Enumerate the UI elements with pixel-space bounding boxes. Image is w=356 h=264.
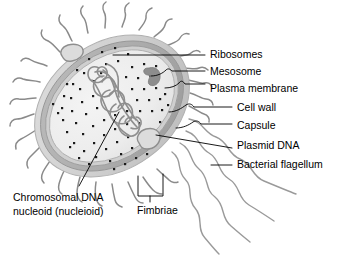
label-bacterial-flagellum: Bacterial flagellum xyxy=(237,158,323,170)
label-fimbriae: Fimbriae xyxy=(137,204,178,216)
label-mesosome: Mesosome xyxy=(210,65,262,77)
label-group-right: Ribosomes Mesosome Plasma membrane Cell … xyxy=(210,48,323,170)
bacteria-cell-diagram: Ribosomes Mesosome Plasma membrane Cell … xyxy=(0,0,356,264)
label-chromosomal-dna-line2: nucleoid (nucleioid) xyxy=(13,205,103,217)
label-cell-wall: Cell wall xyxy=(237,101,276,113)
bacterial-cell-body xyxy=(7,6,217,207)
diagram-canvas: Ribosomes Mesosome Plasma membrane Cell … xyxy=(0,0,356,264)
leader-capsule xyxy=(176,121,232,128)
leader-plasmid-dna xyxy=(156,135,232,148)
plasmid-loop-lower-right xyxy=(137,128,160,149)
label-chromosomal-dna-line1: Chromosomal DNA xyxy=(13,191,103,203)
label-capsule: Capsule xyxy=(237,119,276,131)
leader-fimbriae-bracket xyxy=(138,174,163,196)
label-plasma-membrane: Plasma membrane xyxy=(210,82,298,94)
label-ribosomes: Ribosomes xyxy=(210,48,263,60)
label-plasmid-dna: Plasmid DNA xyxy=(237,139,299,151)
label-group-bottom-left: Chromosomal DNA nucleoid (nucleioid) xyxy=(13,191,103,217)
label-group-fimbriae: Fimbriae xyxy=(137,204,178,216)
